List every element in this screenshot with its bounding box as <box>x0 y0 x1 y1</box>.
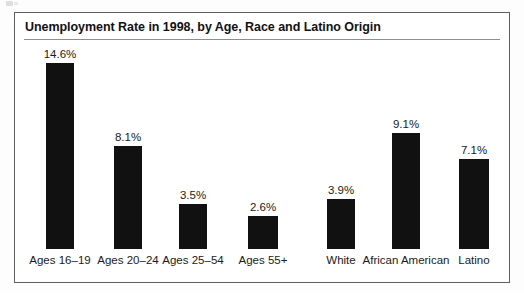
bar-value-label: 14.6% <box>44 48 77 60</box>
plot-area: 14.6%Ages 16–198.1%Ages 20–243.5%Ages 25… <box>15 13 509 282</box>
category-label: Ages 25–54 <box>162 254 223 266</box>
bar-value-label: 2.6% <box>250 201 276 213</box>
bar-value-label: 3.9% <box>328 184 354 196</box>
bar-group: 2.6%Ages 55+ <box>248 216 278 249</box>
bar-value-label: 9.1% <box>393 118 419 130</box>
bar <box>459 159 489 249</box>
category-label: African American <box>363 254 450 266</box>
bar <box>114 146 142 249</box>
scan-artifact-icon <box>6 1 13 6</box>
bar-group: 7.1%Latino <box>459 159 489 249</box>
scan-artifact-secondary-icon <box>14 2 18 5</box>
bar <box>327 199 355 249</box>
page-edge <box>0 291 524 300</box>
bar-group: 3.5%Ages 25–54 <box>179 204 207 249</box>
bar-group: 8.1%Ages 20–24 <box>114 146 142 249</box>
category-label: Latino <box>458 254 489 266</box>
bar <box>179 204 207 249</box>
bar-group: 14.6%Ages 16–19 <box>46 63 74 249</box>
bar <box>248 216 278 249</box>
bar <box>392 133 420 249</box>
chart-frame: Unemployment Rate in 1998, by Age, Race … <box>14 12 510 283</box>
bar-value-label: 8.1% <box>115 131 141 143</box>
category-label: Ages 16–19 <box>29 254 90 266</box>
category-label: Ages 55+ <box>239 254 288 266</box>
category-label: Ages 20–24 <box>97 254 158 266</box>
chart-screenshot: Unemployment Rate in 1998, by Age, Race … <box>0 0 524 300</box>
bar <box>46 63 74 249</box>
bar-group: 9.1%African American <box>392 133 420 249</box>
bar-value-label: 3.5% <box>180 189 206 201</box>
bar-group: 3.9%White <box>327 199 355 249</box>
category-label: White <box>326 254 355 266</box>
bar-value-label: 7.1% <box>461 144 487 156</box>
